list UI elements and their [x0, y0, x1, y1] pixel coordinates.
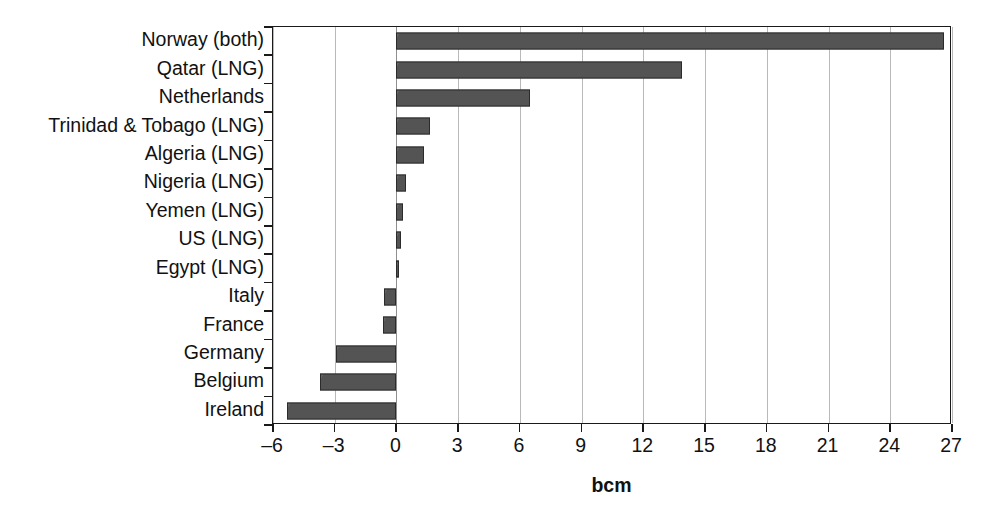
y-axis-tick-label: Qatar (LNG) — [0, 59, 264, 79]
bar-row — [273, 169, 950, 197]
x-axis-tick-label: 15 — [674, 436, 734, 456]
bar — [396, 118, 430, 135]
x-axis-tick-label: 9 — [551, 436, 611, 456]
bar-row — [273, 311, 950, 339]
bar — [384, 289, 396, 306]
bar-row — [273, 340, 950, 368]
y-axis-tick-label: Netherlands — [0, 87, 264, 107]
y-axis-tick-label: Trinidad & Tobago (LNG) — [0, 116, 264, 136]
x-axis-tick-mark — [519, 424, 521, 432]
y-axis-tick-label: Germany — [0, 343, 264, 363]
bar — [396, 33, 943, 50]
y-axis-tick-mark — [264, 111, 272, 113]
bar-row — [273, 254, 950, 282]
bar-row — [273, 112, 950, 140]
bar-row — [273, 141, 950, 169]
bar — [396, 146, 424, 163]
x-axis-tick-label: 6 — [489, 436, 549, 456]
bar-row — [273, 368, 950, 396]
y-axis-tick-mark — [264, 282, 272, 284]
x-axis-tick-label: 24 — [859, 436, 919, 456]
y-axis-tick-label: Norway (both) — [0, 30, 264, 50]
bar — [396, 61, 682, 78]
bar — [396, 260, 399, 277]
y-axis-tick-mark — [264, 225, 272, 227]
x-axis-tick-mark — [395, 424, 397, 432]
y-axis-tick-label: Italy — [0, 286, 264, 306]
x-axis-tick-mark — [334, 424, 336, 432]
bar — [383, 317, 396, 334]
x-axis-tick-mark — [642, 424, 644, 432]
x-axis-tick-mark — [766, 424, 768, 432]
bar — [396, 90, 530, 107]
bar-row — [273, 84, 950, 112]
x-axis-tick-label: 21 — [798, 436, 858, 456]
y-axis-tick-label: Algeria (LNG) — [0, 144, 264, 164]
bar-chart-figure: Norway (both)Qatar (LNG)NetherlandsTrini… — [0, 0, 994, 521]
y-axis-tick-mark — [264, 83, 272, 85]
bar — [336, 345, 397, 362]
bar-row — [273, 55, 950, 83]
y-axis-tick-mark — [264, 26, 272, 28]
y-axis-tick-label: Belgium — [0, 371, 264, 391]
y-axis-tick-label: US (LNG) — [0, 229, 264, 249]
bar — [287, 402, 396, 419]
y-axis-tick-mark — [264, 253, 272, 255]
x-axis-tick-mark — [272, 424, 274, 432]
bar-row — [273, 397, 950, 425]
y-axis-tick-label: France — [0, 315, 264, 335]
y-axis-tick-mark — [264, 197, 272, 199]
y-axis-tick-mark — [264, 140, 272, 142]
x-axis-tick-label: –6 — [242, 436, 302, 456]
bar-row — [273, 226, 950, 254]
x-axis-tick-label: 12 — [612, 436, 672, 456]
x-axis-title: bcm — [272, 474, 951, 497]
y-axis-tick-label: Egypt (LNG) — [0, 258, 264, 278]
y-axis-tick-mark — [264, 424, 272, 426]
plot-area — [272, 26, 951, 424]
y-axis-tick-label: Yemen (LNG) — [0, 201, 264, 221]
gridline-27 — [952, 27, 953, 423]
bar-row — [273, 283, 950, 311]
x-axis-tick-label: 0 — [365, 436, 425, 456]
x-axis-tick-mark — [457, 424, 459, 432]
x-axis-tick-label: 3 — [427, 436, 487, 456]
bar — [396, 175, 405, 192]
bar-row — [273, 198, 950, 226]
x-axis-tick-label: 18 — [736, 436, 796, 456]
x-axis-tick-label: 27 — [921, 436, 981, 456]
bar — [396, 203, 402, 220]
x-axis-tick-mark — [889, 424, 891, 432]
y-axis-tick-mark — [264, 168, 272, 170]
y-axis-tick-mark — [264, 54, 272, 56]
y-axis-tick-label: Ireland — [0, 400, 264, 420]
bar-row — [273, 27, 950, 55]
y-axis-tick-mark — [264, 367, 272, 369]
x-axis-tick-mark — [828, 424, 830, 432]
x-axis-tick-mark — [951, 424, 953, 432]
y-axis-tick-mark — [264, 396, 272, 398]
y-axis-tick-label: Nigeria (LNG) — [0, 172, 264, 192]
x-axis-tick-mark — [704, 424, 706, 432]
x-axis-tick-mark — [581, 424, 583, 432]
bar — [396, 232, 400, 249]
x-axis-tick-label: –3 — [304, 436, 364, 456]
y-axis-tick-mark — [264, 310, 272, 312]
bar — [320, 374, 396, 391]
y-axis-tick-mark — [264, 339, 272, 341]
